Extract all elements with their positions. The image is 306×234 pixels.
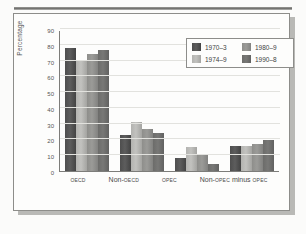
legend-swatch (192, 55, 201, 63)
x-tick-label: Non-OPEC minus OPEC (200, 176, 268, 183)
bar (142, 129, 153, 171)
page-top-rule (14, 7, 292, 10)
y-axis-ticks: 9080706050403020100 (36, 14, 54, 210)
bar-group (65, 31, 109, 171)
gridline (60, 91, 280, 92)
bar (230, 146, 241, 171)
y-tick-label: 60 (38, 75, 54, 81)
y-tick-label: 80 (38, 44, 54, 50)
legend-label: 1970–3 (205, 44, 227, 51)
legend-label: 1974–9 (205, 56, 227, 63)
bar (120, 135, 131, 171)
gridline (60, 138, 280, 139)
legend-item: 1990–8 (242, 55, 288, 63)
y-tick-label: 20 (38, 138, 54, 144)
bar (65, 48, 76, 171)
bar (131, 122, 142, 171)
y-tick-label: 70 (38, 60, 54, 66)
bar-group (120, 31, 164, 171)
y-tick-label: 40 (38, 107, 54, 113)
figure-frame: Percentage 9080706050403020100 OECDNon-O… (13, 13, 290, 211)
gridline (60, 28, 280, 29)
gridline (60, 107, 280, 108)
gridline (60, 154, 280, 155)
gridline (60, 75, 280, 76)
bar (175, 158, 186, 171)
legend-label: 1980–9 (255, 44, 277, 51)
legend-item: 1974–9 (192, 55, 238, 63)
x-tick-label: Non-OECD (109, 176, 139, 183)
x-tick-label: OECD (70, 176, 85, 183)
x-tick-label: OPEC (162, 176, 177, 183)
bar (186, 147, 197, 171)
legend-swatch (242, 43, 251, 51)
chart-legend: 1970–31980–91974–91990–8 (186, 38, 294, 68)
legend-item: 1970–3 (192, 43, 238, 51)
bar (208, 164, 219, 171)
y-axis-title: Percentage (16, 0, 23, 76)
legend-swatch (192, 43, 201, 51)
y-tick-label: 50 (38, 91, 54, 97)
chart-canvas: Percentage 9080706050403020100 OECDNon-O… (14, 14, 289, 210)
bar (241, 146, 252, 171)
bar (252, 144, 263, 171)
y-tick-label: 90 (38, 28, 54, 34)
y-tick-label: 10 (38, 154, 54, 160)
bar (197, 155, 208, 171)
y-tick-label: 0 (38, 170, 54, 176)
legend-item: 1980–9 (242, 43, 288, 51)
bar (263, 140, 274, 171)
x-axis-labels: OECDNon-OECDOPECNon-OPEC minus OPEC (59, 176, 279, 190)
y-tick-label: 30 (38, 123, 54, 129)
bar (98, 50, 109, 171)
scanned-page: Percentage 9080706050403020100 OECDNon-O… (0, 0, 306, 234)
gridline (60, 123, 280, 124)
legend-swatch (242, 55, 251, 63)
legend-label: 1990–8 (255, 56, 277, 63)
